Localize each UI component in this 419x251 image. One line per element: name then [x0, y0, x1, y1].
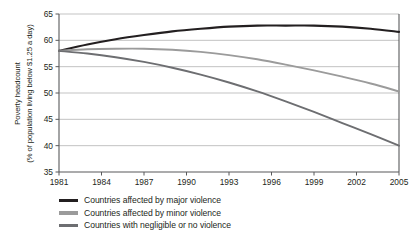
x-tick-label: 1987 [135, 177, 154, 187]
chart-legend: Countries affected by major violenceCoun… [59, 194, 399, 232]
series-line-2 [59, 51, 399, 146]
legend-swatch-icon [59, 211, 78, 214]
legend-item[interactable]: Countries affected by minor violence [59, 207, 399, 220]
legend-swatch-icon [59, 199, 78, 202]
legend-item-label: Countries with negligible or no violence [84, 220, 231, 230]
x-tick-label: 1990 [177, 177, 196, 187]
series-line-1 [59, 49, 399, 92]
y-tick-label: 45 [44, 114, 54, 124]
series-line-0 [59, 26, 399, 51]
x-tick-label: 1984 [92, 177, 111, 187]
x-tick-label: 2005 [390, 177, 409, 187]
x-axis-ticks: 198119841987199019931996199920022005 [50, 172, 409, 187]
legend-item[interactable]: Countries with negligible or no violence [59, 219, 399, 232]
x-tick-label: 2002 [347, 177, 366, 187]
legend-item-label: Countries affected by major violence [84, 195, 221, 205]
y-tick-label: 65 [44, 9, 54, 19]
chart-figure: Poverty headcount (% of population livin… [0, 0, 419, 251]
y-tick-label: 60 [44, 35, 54, 45]
x-tick-label: 1993 [220, 177, 239, 187]
y-tick-label: 50 [44, 88, 54, 98]
x-tick-label: 1999 [305, 177, 324, 187]
x-tick-label: 1996 [262, 177, 281, 187]
legend-item[interactable]: Countries affected by major violence [59, 194, 399, 207]
legend-swatch-icon [59, 224, 78, 227]
data-series-group [59, 26, 399, 146]
y-axis-ticks: 35404550556065 [44, 9, 59, 177]
legend-item-label: Countries affected by minor violence [84, 208, 221, 218]
y-tick-label: 55 [44, 62, 54, 72]
y-tick-label: 40 [44, 141, 54, 151]
y-tick-label: 35 [44, 167, 54, 177]
x-tick-label: 1981 [50, 177, 69, 187]
